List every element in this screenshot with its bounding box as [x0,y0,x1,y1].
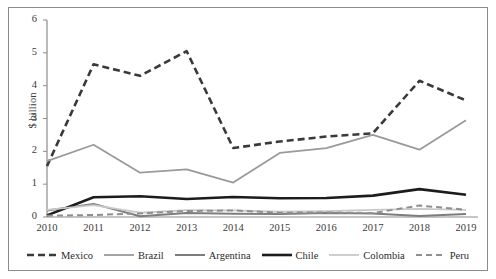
legend-item-peru[interactable]: Peru [416,250,469,261]
legend-label: Mexico [61,250,93,261]
legend-item-mexico[interactable]: Mexico [27,250,93,261]
legend-label: Chile [296,250,319,261]
legend-item-argentina[interactable]: Argentina [175,250,251,261]
legend-label: Peru [450,250,469,261]
legend-swatch-peru-icon [416,251,446,259]
chart-figure: $ billion 0123456 2010201120122013201420… [0,0,496,279]
series-line-mexico [47,51,466,166]
legend-swatch-mexico-icon [27,251,57,259]
legend-label: Colombia [363,250,404,261]
legend-item-colombia[interactable]: Colombia [329,250,404,261]
legend-label: Argentina [209,250,251,261]
series-line-brazil [47,120,466,182]
legend-label: Brazil [138,250,164,261]
legend-item-chile[interactable]: Chile [262,250,319,261]
legend-swatch-colombia-icon [329,251,359,259]
legend-swatch-brazil-icon [104,251,134,259]
plot-area: $ billion 0123456 2010201120122013201420… [0,0,496,279]
legend-swatch-argentina-icon [175,251,205,259]
line-chart-canvas [0,0,496,279]
chart-legend: MexicoBrazilArgentinaChileColombiaPeru [28,246,468,264]
legend-swatch-chile-icon [262,251,292,259]
legend-item-brazil[interactable]: Brazil [104,250,164,261]
